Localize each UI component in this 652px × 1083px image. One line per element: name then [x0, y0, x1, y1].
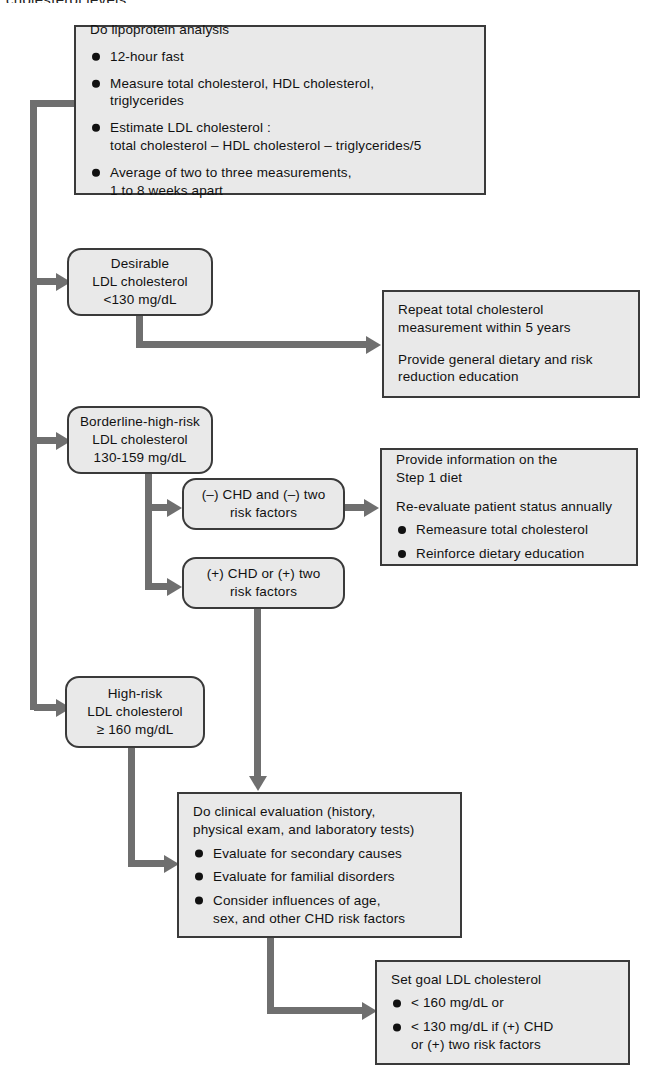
edge-clinical-eval-right: [267, 1007, 366, 1014]
list-item: Remeasure total cholesterol: [396, 521, 622, 539]
node-bullet-list: 12-hour fast Measure total cholesterol, …: [90, 48, 470, 200]
node-bullet-list: < 160 mg/dL or < 130 mg/dL if (+) CHD or…: [391, 995, 614, 1054]
node-text: (+) CHD or (+) two risk factors: [184, 565, 343, 601]
node-chd-negative: (–) CHD and (–) two risk factors: [182, 478, 345, 530]
arrowhead-to-repeat-box: [366, 336, 381, 354]
arrowhead-to-step1-box: [364, 499, 379, 517]
list-item: Reinforce dietary education: [396, 545, 622, 563]
spine-top-horizontal: [30, 100, 75, 107]
node-title: Set goal LDL cholesterol: [391, 971, 614, 989]
node-title: Do clinical evaluation (history, physica…: [193, 803, 446, 839]
node-text: (–) CHD and (–) two risk factors: [184, 486, 343, 522]
list-item: Evaluate for secondary causes: [193, 844, 446, 862]
edge-high-risk-down: [128, 744, 135, 867]
edge-borderline-down: [145, 470, 152, 590]
edge-desirable-down: [136, 312, 143, 344]
edge-desirable-right: [136, 341, 370, 348]
node-lipoprotein-analysis: Do lipoprotein analysis 12-hour fast Mea…: [74, 25, 486, 195]
paragraph-spacer: [398, 337, 624, 351]
node-borderline-high-risk: Borderline-high-risk LDL cholesterol 130…: [67, 406, 213, 474]
arrowhead-to-chd-negative: [167, 499, 182, 517]
list-item: Consider influences of age, sex, and oth…: [193, 892, 446, 928]
node-paragraph: Provide information on the Step 1 diet: [396, 451, 622, 487]
list-item: Estimate LDL cholesterol : total cholest…: [90, 119, 470, 155]
arrowhead-to-clinical-eval-top: [249, 776, 267, 791]
node-repeat-total-cholesterol: Repeat total cholesterol measurement wit…: [382, 290, 640, 398]
arrowhead-to-chd-positive: [167, 578, 182, 596]
list-item: < 160 mg/dL or: [391, 995, 614, 1013]
flowchart-canvas: cholesterol levels. Do lipoprotein analy…: [0, 0, 652, 1083]
node-paragraph: Re-evaluate patient status annually: [396, 498, 622, 516]
node-bullet-list: Evaluate for secondary causes Evaluate f…: [193, 844, 446, 927]
spine-vertical: [30, 100, 37, 710]
node-text: High-risk LDL cholesterol ≥ 160 mg/dL: [67, 685, 203, 738]
list-item: < 130 mg/dL if (+) CHD or (+) two risk f…: [391, 1019, 614, 1055]
node-set-goal-ldl: Set goal LDL cholesterol < 160 mg/dL or …: [375, 960, 630, 1065]
node-chd-positive: (+) CHD or (+) two risk factors: [182, 557, 345, 609]
node-text: Borderline-high-risk LDL cholesterol 130…: [69, 413, 211, 466]
node-paragraph: Provide general dietary and risk reducti…: [398, 351, 624, 387]
node-title: Do lipoprotein analysis: [90, 21, 470, 39]
node-paragraph: Repeat total cholesterol measurement wit…: [398, 301, 624, 337]
node-desirable: Desirable LDL cholesterol <130 mg/dL: [67, 248, 213, 316]
node-high-risk: High-risk LDL cholesterol ≥ 160 mg/dL: [65, 676, 205, 748]
node-clinical-evaluation: Do clinical evaluation (history, physica…: [177, 792, 462, 938]
list-item: Average of two to three measurements, 1 …: [90, 164, 470, 200]
node-step-1-diet: Provide information on the Step 1 diet R…: [380, 448, 638, 566]
edge-high-risk-right: [128, 860, 168, 867]
cropped-caption-text: cholesterol levels.: [6, 0, 131, 3]
edge-clinical-eval-down: [267, 938, 274, 1014]
list-item: Measure total cholesterol, HDL cholester…: [90, 74, 470, 110]
node-bullet-list: Remeasure total cholesterol Reinforce di…: [396, 521, 622, 563]
edge-chd-positive-down: [254, 608, 261, 780]
node-text: Desirable LDL cholesterol <130 mg/dL: [69, 255, 211, 308]
list-item: 12-hour fast: [90, 48, 470, 66]
list-item: Evaluate for familial disorders: [193, 868, 446, 886]
